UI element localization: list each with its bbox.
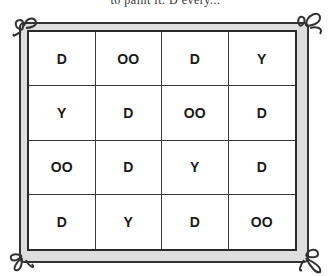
grid-cell: D	[96, 141, 163, 195]
bottom-right-curl-icon	[296, 244, 330, 276]
grid-cell: OO	[229, 195, 296, 249]
grid-cell: Y	[162, 141, 229, 195]
grid-cell: D	[162, 32, 229, 86]
grid-cell: OO	[96, 32, 163, 86]
grid-cell: OO	[162, 86, 229, 140]
grid-cell: OO	[29, 141, 96, 195]
letter-grid: D OO D Y Y D OO D OO D Y D D Y D OO	[27, 30, 297, 251]
grid-cell: D	[229, 86, 296, 140]
grid-cell: Y	[29, 86, 96, 140]
grid-cell: D	[162, 195, 229, 249]
grid-cell: Y	[96, 195, 163, 249]
grid-cell: D	[29, 32, 96, 86]
grid-cell: Y	[229, 32, 296, 86]
grid-cell: D	[96, 86, 163, 140]
grid-cell: D	[29, 195, 96, 249]
grid-cell: D	[229, 141, 296, 195]
clipped-caption: to paint it. D every...	[0, 0, 331, 8]
top-right-curl-icon	[292, 6, 328, 38]
